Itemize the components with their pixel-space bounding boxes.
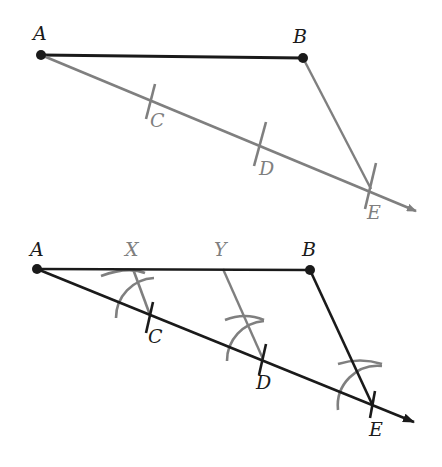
label-c: C xyxy=(148,325,163,347)
figure-1: A B C D E xyxy=(31,22,416,223)
arc-e-lower xyxy=(338,366,382,410)
label-e: E xyxy=(368,418,383,440)
label-d: D xyxy=(255,371,271,393)
construction-diagram: A B C D E A X Y B C D E xyxy=(0,0,442,467)
point-b xyxy=(305,265,315,275)
point-b xyxy=(298,53,308,63)
point-a xyxy=(32,264,42,274)
label-e: E xyxy=(366,201,381,223)
arc-e-upper xyxy=(338,361,382,365)
label-b: B xyxy=(301,238,316,260)
label-c: C xyxy=(150,109,165,131)
label-y: Y xyxy=(214,238,229,260)
ray-from-a xyxy=(37,269,414,422)
figure-2: A X Y B C D E xyxy=(28,238,414,440)
segment-ab xyxy=(41,55,303,58)
segment-ab xyxy=(37,269,310,270)
label-a: A xyxy=(31,22,47,44)
label-d: D xyxy=(258,157,274,179)
point-a xyxy=(36,50,46,60)
ray-from-a xyxy=(41,55,416,211)
label-b: B xyxy=(292,25,307,47)
label-x: X xyxy=(123,238,140,260)
arc-x-upper xyxy=(101,270,145,276)
label-a: A xyxy=(28,238,44,260)
